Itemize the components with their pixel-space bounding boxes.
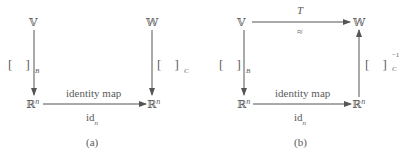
node-a-Rn-left: ℝn [26, 99, 39, 110]
label-b-identity-map: identity map [275, 88, 330, 99]
node-b-W: 𝕎 [353, 17, 365, 28]
label-a-id-n: idn [86, 112, 98, 123]
node-a-V: 𝕍 [29, 17, 38, 28]
node-a-W: 𝕎 [146, 17, 158, 28]
node-a-Rn-right: ℝn [147, 99, 160, 110]
label-a-identity-map: identity map [66, 88, 121, 99]
node-b-Rn-right: ℝn [352, 99, 365, 110]
caption-a: (a) [86, 137, 98, 148]
label-b-coord-C-inverse: [ ]−1C [365, 58, 400, 71]
node-b-Rn-left: ℝn [237, 99, 250, 110]
label-a-coord-C: [ ]C [157, 58, 189, 71]
label-b-isomorphic: ≈ [297, 27, 303, 37]
node-b-V: 𝕍 [237, 17, 246, 28]
caption-b: (b) [294, 137, 307, 148]
label-b-id-n: idn [294, 112, 306, 123]
label-b-T: T [297, 5, 303, 16]
label-a-coord-B: [ ]B [8, 58, 39, 71]
label-b-coord-B: [ ]B [219, 58, 250, 71]
